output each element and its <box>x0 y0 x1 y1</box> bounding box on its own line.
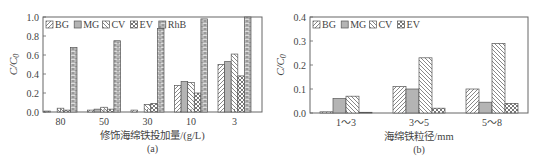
legend-label-cv: CV <box>111 19 126 30</box>
y-axis-label-subscript: 0 <box>279 54 288 58</box>
y-tick-label: 0.0 <box>294 108 307 119</box>
figure-caption: (b) <box>413 144 425 156</box>
bar-rhb-2 <box>157 28 164 112</box>
legend-swatch-cv <box>369 21 376 28</box>
legend-label-mg: MG <box>83 19 99 30</box>
bar-ev-1 <box>432 108 445 113</box>
y-axis-label: C/C0 <box>275 54 288 76</box>
bar-bg-0 <box>44 111 51 112</box>
y-tick-label: 0.8 <box>27 31 40 42</box>
legend: BGMGCVEV <box>313 19 421 30</box>
y-tick-label: 0.1 <box>294 84 307 95</box>
legend-swatch-ev <box>131 21 138 28</box>
legend-swatch-bg <box>46 21 53 28</box>
x-tick-label: 80 <box>56 116 66 127</box>
chart-a: 0.00.20.40.60.81.0C/C0805030103修饰海绵铁投加量/… <box>0 0 275 159</box>
bar-mg-3 <box>181 82 188 112</box>
legend-swatch-mg <box>74 21 81 28</box>
bar-bg-4 <box>218 65 225 113</box>
y-tick-label: 0.6 <box>27 50 40 61</box>
bar-mg-2 <box>479 102 492 113</box>
bar-mg-4 <box>225 62 232 112</box>
x-tick-label: 3 <box>232 116 237 127</box>
legend-label-ev: EV <box>407 19 421 30</box>
x-axis-label: 修饰海绵铁投加量/(g/L) <box>100 129 205 142</box>
x-tick-label: 3～5 <box>409 117 429 128</box>
bar-cv-2 <box>492 43 505 113</box>
legend-swatch-ev <box>398 21 405 28</box>
legend-label-mg: MG <box>350 19 366 30</box>
bar-rhb-4 <box>244 17 251 112</box>
legend-label-bg: BG <box>322 19 336 30</box>
x-axis-label: 海绵铁粒径/mm <box>384 130 453 142</box>
y-tick-label: 0.2 <box>294 60 307 71</box>
legend-swatch-bg <box>313 21 320 28</box>
legend-swatch-rhb <box>159 21 166 28</box>
y-tick-label: 0.0 <box>27 107 40 118</box>
bar-ev-2 <box>151 103 158 112</box>
bar-cv-4 <box>231 54 238 112</box>
x-tick-label: 50 <box>99 116 109 127</box>
figure-caption: (a) <box>147 143 158 155</box>
bar-rhb-3 <box>201 19 208 112</box>
legend-swatch-mg <box>341 21 348 28</box>
bar-rhb-0 <box>70 47 77 112</box>
legend-label-bg: BG <box>55 19 69 30</box>
bar-bg-3 <box>175 85 182 112</box>
chart-b: 0.00.10.20.30.4C/C01～33～55～8海绵铁粒径/mm(b)B… <box>275 0 540 159</box>
bar-ev-1 <box>107 109 114 112</box>
bar-cv-1 <box>419 58 432 113</box>
bar-bg-2 <box>131 110 138 112</box>
y-tick-label: 0.3 <box>294 36 307 47</box>
bar-ev-0 <box>359 112 372 113</box>
bar-mg-0 <box>333 99 346 113</box>
bar-cv-0 <box>346 96 359 113</box>
bar-bg-1 <box>88 110 95 112</box>
legend-swatch-cv <box>102 21 109 28</box>
legend: BGMGCVEVRhB <box>46 19 186 30</box>
y-axis-label-subscript: 0 <box>12 54 21 58</box>
bar-bg-1 <box>393 87 406 113</box>
bar-rhb-1 <box>114 41 121 112</box>
bar-cv-3 <box>188 83 195 112</box>
bar-ev-4 <box>238 76 245 112</box>
x-tick-label: 10 <box>186 116 196 127</box>
y-axis-label: C/C0 <box>7 54 21 76</box>
bar-bg-2 <box>466 89 479 113</box>
legend-label-ev: EV <box>140 19 154 30</box>
y-tick-label: 0.4 <box>27 69 40 80</box>
legend-label-cv: CV <box>378 19 393 30</box>
bar-mg-1 <box>94 109 101 112</box>
bar-mg-1 <box>406 89 419 113</box>
chart-b-svg: 0.00.10.20.30.4C/C01～33～55～8海绵铁粒径/mm(b)B… <box>275 0 540 159</box>
y-tick-label: 0.2 <box>27 88 40 99</box>
y-tick-label: 0.4 <box>294 12 307 23</box>
x-tick-label: 5～8 <box>482 117 502 128</box>
bar-ev-3 <box>194 93 201 112</box>
x-tick-label: 30 <box>143 116 153 127</box>
y-tick-label: 1.0 <box>27 12 40 23</box>
chart-a-svg: 0.00.20.40.60.81.0C/C0805030103修饰海绵铁投加量/… <box>0 0 275 159</box>
x-tick-label: 1～3 <box>336 117 356 128</box>
bar-ev-2 <box>505 103 518 113</box>
legend-label-rhb: RhB <box>168 19 187 30</box>
bar-bg-0 <box>320 112 333 113</box>
bar-ev-0 <box>64 110 71 112</box>
